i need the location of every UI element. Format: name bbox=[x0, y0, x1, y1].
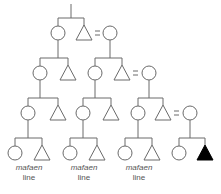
lineage-label-suffix: line bbox=[119, 173, 159, 183]
lineage-label: mafaen line bbox=[119, 163, 159, 183]
lineage-label: mafaen line bbox=[9, 163, 49, 183]
female-symbol bbox=[88, 66, 102, 80]
female-symbol bbox=[142, 66, 156, 80]
female-symbol bbox=[76, 106, 90, 120]
female-symbol bbox=[8, 146, 22, 160]
female-symbol bbox=[21, 106, 35, 120]
female-symbol bbox=[118, 146, 132, 160]
ego-male-symbol-filled bbox=[197, 145, 213, 160]
lineage-label-name: mafaen bbox=[9, 163, 49, 173]
female-symbol bbox=[51, 26, 65, 40]
female-symbol bbox=[183, 106, 197, 120]
female-symbol bbox=[172, 146, 186, 160]
female-symbol bbox=[33, 66, 47, 80]
male-symbol bbox=[114, 65, 130, 80]
male-symbol bbox=[89, 145, 105, 160]
male-symbol bbox=[60, 65, 76, 80]
lineage-label-name: mafaen bbox=[119, 163, 159, 173]
lineage-label-suffix: line bbox=[9, 173, 49, 183]
lineage-label-name: mafaen bbox=[64, 163, 104, 173]
lineage-label-suffix: line bbox=[64, 173, 104, 183]
lineage-label: mafaen line bbox=[64, 163, 104, 183]
male-symbol bbox=[155, 105, 171, 120]
male-symbol bbox=[103, 105, 119, 120]
female-symbol bbox=[131, 106, 145, 120]
male-symbol bbox=[34, 145, 50, 160]
male-symbol bbox=[144, 145, 160, 160]
female-symbol bbox=[63, 146, 77, 160]
male-symbol bbox=[76, 25, 92, 40]
female-symbol bbox=[103, 26, 117, 40]
male-symbol bbox=[50, 105, 66, 120]
